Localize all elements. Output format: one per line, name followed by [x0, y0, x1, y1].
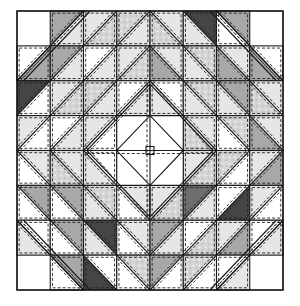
hst-cell [117, 185, 150, 220]
hst-cell [84, 255, 117, 290]
hst-cell [183, 185, 216, 220]
hst-cell [183, 46, 216, 81]
hst-cell [150, 255, 183, 290]
hst-cell [84, 185, 117, 220]
hst-cell [17, 81, 50, 116]
hst-cell [183, 81, 216, 116]
hst-cell [217, 46, 250, 81]
quilt-block-svg [0, 0, 300, 306]
hst-cell [84, 151, 117, 186]
hst-cell [150, 220, 183, 255]
hst-cell [150, 46, 183, 81]
hst-cell [84, 11, 117, 46]
hst-cell [250, 81, 283, 116]
hst-cell [17, 185, 50, 220]
hst-cell [183, 255, 216, 290]
hst-cell [84, 116, 117, 151]
hst-cell [50, 185, 83, 220]
hst-cell [117, 220, 150, 255]
hst-cell [84, 46, 117, 81]
hst-cell [183, 11, 216, 46]
hst-cell [250, 151, 283, 186]
hst-cell [117, 11, 150, 46]
hst-cell [217, 81, 250, 116]
quilt-diagram [0, 0, 300, 306]
hst-cell [217, 220, 250, 255]
hst-cell [50, 116, 83, 151]
hst-cell [183, 220, 216, 255]
hst-cell [84, 81, 117, 116]
hst-cell [117, 81, 150, 116]
hst-cell [50, 151, 83, 186]
hst-cell [250, 185, 283, 220]
hst-cell [217, 116, 250, 151]
hst-cell [250, 116, 283, 151]
hst-cell [217, 151, 250, 186]
hst-cell [84, 220, 117, 255]
hst-cell [183, 116, 216, 151]
hst-cell [17, 116, 50, 151]
hst-cell [117, 46, 150, 81]
hst-cell [150, 11, 183, 46]
hst-cell [117, 255, 150, 290]
hst-cell [50, 46, 83, 81]
hst-cell [17, 151, 50, 186]
hst-cell [50, 81, 83, 116]
hst-cell [217, 185, 250, 220]
hst-cell [50, 220, 83, 255]
